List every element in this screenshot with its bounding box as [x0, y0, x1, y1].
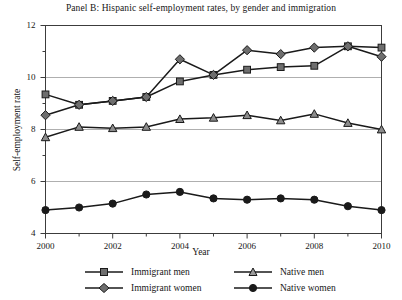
x-tick-label: 2004	[160, 241, 200, 251]
legend-label: Native women	[280, 282, 336, 294]
gridlines	[46, 78, 382, 182]
data-point-marker	[277, 195, 284, 202]
x-tick-label: 2002	[93, 241, 133, 251]
data-series-group	[41, 42, 386, 214]
data-point-marker	[311, 196, 318, 203]
data-point-marker	[277, 64, 284, 71]
legend-swatch-triangle	[232, 266, 274, 278]
chart-figure: Panel B: Hispanic self-employment rates,…	[0, 0, 402, 300]
data-point-marker	[311, 62, 318, 69]
data-point-marker	[378, 207, 385, 214]
data-point-marker	[41, 111, 50, 120]
data-point-marker	[177, 78, 184, 85]
y-tick-label: 6	[18, 176, 36, 186]
legend-swatch-circle	[232, 282, 274, 294]
legend-item-native-women[interactable]: Native women	[232, 282, 336, 294]
x-tick-label: 2010	[362, 241, 402, 251]
data-point-marker	[109, 200, 116, 207]
legend-label: Native men	[280, 266, 324, 278]
legend-item-native-men[interactable]: Native men	[232, 266, 324, 278]
legend-label: Immigrant women	[131, 282, 201, 294]
y-tick-label: 8	[18, 124, 36, 134]
legend-swatch-diamond	[83, 282, 125, 294]
data-point-marker	[176, 188, 183, 195]
legend-label: Immigrant men	[131, 266, 190, 278]
y-tick-label: 4	[18, 228, 36, 238]
x-tick-label: 2000	[26, 241, 66, 251]
legend-item-immigrant-women[interactable]: Immigrant women	[83, 282, 201, 294]
data-point-marker	[42, 91, 49, 98]
data-point-marker	[76, 204, 83, 211]
legend-swatch-square	[83, 266, 125, 278]
data-point-marker	[244, 196, 251, 203]
chart-legend: Immigrant men Native men Immigrant women…	[0, 264, 402, 300]
data-point-marker	[310, 43, 319, 52]
legend-item-immigrant-men[interactable]: Immigrant men	[83, 266, 190, 278]
y-tick-label: 12	[18, 20, 36, 30]
data-point-marker	[244, 66, 251, 73]
data-point-marker	[143, 191, 150, 198]
x-tick-label: 2008	[294, 241, 334, 251]
data-point-marker	[210, 195, 217, 202]
data-point-marker	[377, 52, 386, 61]
data-point-marker	[276, 50, 285, 59]
data-point-marker	[310, 110, 318, 118]
data-point-marker	[378, 44, 385, 51]
plot-area	[0, 0, 402, 300]
x-tick-label: 2006	[227, 241, 267, 251]
y-tick-label: 10	[18, 72, 36, 82]
data-point-marker	[344, 203, 351, 210]
data-point-marker	[42, 207, 49, 214]
